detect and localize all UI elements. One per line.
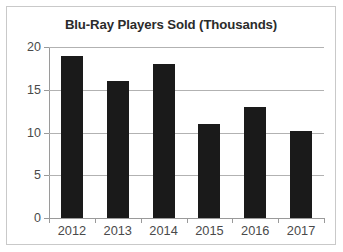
x-axis-tick-label-2012: 2012 (58, 223, 86, 238)
x-axis-tick-mark (49, 218, 50, 223)
y-axis-tick-mark (44, 175, 49, 176)
y-axis-tick-mark (44, 90, 49, 91)
x-axis-tick-mark (324, 218, 325, 223)
bar-2012 (61, 56, 83, 218)
y-axis-tick-label: 10 (27, 126, 41, 139)
y-axis-tick-mark (44, 133, 49, 134)
bar-2013 (107, 81, 129, 218)
gridline (49, 90, 324, 91)
gridline (49, 133, 324, 134)
x-axis-tick-label-2016: 2016 (241, 223, 269, 238)
bar-2017 (290, 131, 312, 218)
x-axis-tick-label-2017: 2017 (287, 223, 315, 238)
y-axis-tick-label: 0 (34, 212, 41, 225)
chart-title: Blu-Ray Players Sold (Thousands) (7, 17, 335, 32)
bar-2015 (198, 124, 220, 218)
plot-area (49, 47, 324, 218)
x-axis-tick-mark (95, 218, 96, 223)
y-axis-tick-label: 15 (27, 84, 41, 97)
y-axis-tick-label: 20 (27, 41, 41, 54)
chart-frame: Blu-Ray Players Sold (Thousands) 0510152… (6, 6, 336, 245)
x-axis-tick-label-2013: 2013 (104, 223, 132, 238)
x-axis-tick-label-2014: 2014 (149, 223, 177, 238)
x-axis-tick-label-2015: 2015 (195, 223, 223, 238)
x-axis-tick-mark (232, 218, 233, 223)
x-axis-tick-mark (187, 218, 188, 223)
x-axis-tick-mark (278, 218, 279, 223)
bar-2016 (244, 107, 266, 218)
y-axis-tick-labels: 05101520 (7, 47, 49, 218)
gridline (49, 47, 324, 48)
bar-2014 (153, 64, 175, 218)
x-axis-tick-mark (141, 218, 142, 223)
gridline (49, 175, 324, 176)
y-axis-tick-label: 5 (34, 169, 41, 182)
y-axis-tick-mark (44, 47, 49, 48)
